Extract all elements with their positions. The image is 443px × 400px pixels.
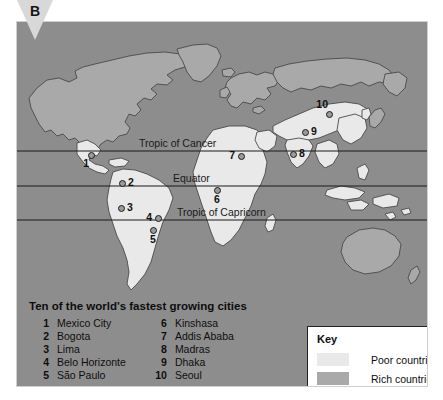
key-entry-rich: Rich countries <box>317 372 428 385</box>
panel-label-letter: B <box>17 3 53 19</box>
city-list-number: 4 <box>29 356 49 368</box>
caption-block: Ten of the world's fastest growing citie… <box>29 300 247 382</box>
city-list-number: 5 <box>29 369 49 381</box>
city-list-number: 8 <box>147 343 167 355</box>
world-map: Tropic of Cancer Equator Tropic of Capri… <box>16 21 428 387</box>
city-list-item: 8Madras <box>147 343 234 356</box>
marker-number-5: 5 <box>150 234 156 245</box>
city-list-name: Dhaka <box>175 356 205 368</box>
city-list-number: 7 <box>147 330 167 342</box>
key-swatch-poor <box>317 353 349 366</box>
city-list-column-1: 1Mexico City2Bogota3Lima4Belo Horizonte5… <box>29 317 126 382</box>
marker-dot-icon <box>302 129 309 136</box>
city-list-item: 7Addis Ababa <box>147 330 234 343</box>
city-list-number: 2 <box>29 330 49 342</box>
city-list: 1Mexico City2Bogota3Lima4Belo Horizonte5… <box>29 317 247 382</box>
city-list-item: 1Mexico City <box>29 317 126 330</box>
marker-number-1: 1 <box>83 158 89 169</box>
city-list-number: 3 <box>29 343 49 355</box>
marker-number-2: 2 <box>128 177 134 188</box>
city-list-item: 5São Paulo <box>29 369 126 382</box>
key-box: Key Poor countries Rich countries <box>307 326 428 387</box>
city-list-name: Lima <box>57 343 80 355</box>
marker-dot-icon <box>119 180 126 187</box>
city-list-item: 4Belo Horizonte <box>29 356 126 369</box>
city-list-number: 1 <box>29 317 49 329</box>
marker-number-6: 6 <box>214 194 220 205</box>
city-list-item: 9Dhaka <box>147 356 234 369</box>
key-title: Key <box>317 333 337 345</box>
city-list-number: 10 <box>147 369 167 381</box>
city-list-name: Mexico City <box>57 317 111 329</box>
city-list-name: Kinshasa <box>175 317 218 329</box>
city-list-name: Belo Horizonte <box>57 356 126 368</box>
tropic-of-capricorn-label: Tropic of Capricorn <box>177 206 266 218</box>
key-label-poor: Poor countries <box>371 354 428 366</box>
marker-dot-icon <box>155 215 162 222</box>
city-list-item: 2Bogota <box>29 330 126 343</box>
caption-title: Ten of the world's fastest growing citie… <box>29 300 247 312</box>
city-list-name: Madras <box>175 343 210 355</box>
city-list-item: 10Seoul <box>147 369 234 382</box>
key-swatch-rich <box>317 372 349 385</box>
city-list-number: 9 <box>147 356 167 368</box>
marker-number-9: 9 <box>311 126 317 137</box>
city-list-name: Bogota <box>57 330 90 342</box>
key-entry-poor: Poor countries <box>317 353 428 366</box>
city-list-number: 6 <box>147 317 167 329</box>
marker-dot-icon <box>326 111 333 118</box>
marker-number-4: 4 <box>146 212 152 223</box>
figure-panel-b: Tropic of Cancer Equator Tropic of Capri… <box>0 0 443 400</box>
city-list-name: Addis Ababa <box>175 330 234 342</box>
city-list-name: São Paulo <box>57 369 105 381</box>
city-list-item: 6Kinshasa <box>147 317 234 330</box>
panel-label-tag: B <box>17 0 53 40</box>
marker-number-3: 3 <box>127 202 133 213</box>
city-list-item: 3Lima <box>29 343 126 356</box>
equator-label: Equator <box>173 172 210 184</box>
marker-number-8: 8 <box>299 148 305 159</box>
tropic-of-cancer-label: Tropic of Cancer <box>139 137 216 149</box>
marker-dot-icon <box>118 205 125 212</box>
city-list-column-2: 6Kinshasa7Addis Ababa8Madras9Dhaka10Seou… <box>147 317 234 382</box>
key-label-rich: Rich countries <box>371 373 428 385</box>
marker-number-7: 7 <box>229 150 235 161</box>
marker-number-10: 10 <box>316 99 328 110</box>
city-list-name: Seoul <box>175 369 202 381</box>
marker-dot-icon <box>290 151 297 158</box>
marker-dot-icon <box>238 153 245 160</box>
